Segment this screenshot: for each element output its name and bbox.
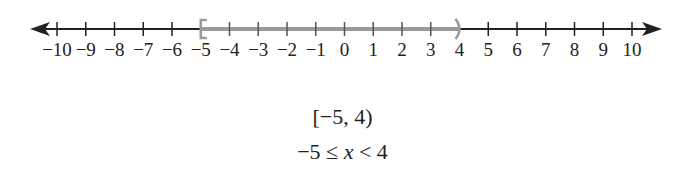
tick-label: 10 <box>623 39 642 60</box>
tick-label: −6 <box>162 39 182 60</box>
tick-label: 4 <box>455 39 465 60</box>
interval-open-bracket: [ <box>312 104 319 129</box>
tick-label: 9 <box>599 39 609 60</box>
tick-label: 7 <box>541 39 551 60</box>
inequality: −5 ≤ x < 4 <box>0 139 685 165</box>
tick-label: −8 <box>104 39 124 60</box>
tick-label: 6 <box>512 39 522 60</box>
inequality-variable: x <box>344 139 354 164</box>
tick-label: −2 <box>277 39 297 60</box>
tick-label: −3 <box>248 39 268 60</box>
interval-upper: 4 <box>354 104 365 129</box>
tick-label: −1 <box>306 39 326 60</box>
number-line: −10−9−8−7−6−5−4−3−2−1012345678910 <box>0 0 685 80</box>
inequality-left: −5 ≤ <box>297 139 343 164</box>
tick-label: 2 <box>397 39 407 60</box>
tick-label: 1 <box>369 39 379 60</box>
inequality-right: < 4 <box>353 139 387 164</box>
tick-label: −9 <box>76 39 96 60</box>
tick-label: −7 <box>133 39 153 60</box>
tick-label: −4 <box>219 39 240 60</box>
tick-label: 5 <box>484 39 494 60</box>
tick-label: 0 <box>340 39 350 60</box>
interval-lower: −5 <box>320 104 343 129</box>
interval-close-paren: ) <box>365 104 372 129</box>
tick-label: 3 <box>426 39 436 60</box>
tick-label: 8 <box>570 39 580 60</box>
tick-label: −10 <box>42 39 72 60</box>
interval-separator: , <box>343 104 354 129</box>
tick-label: −5 <box>191 39 211 60</box>
interval-notation: [−5, 4) <box>0 104 685 130</box>
